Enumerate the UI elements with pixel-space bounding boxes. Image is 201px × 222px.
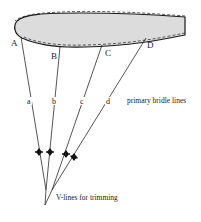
label-point-d: D	[147, 40, 154, 50]
bridle-line-d	[52, 38, 146, 190]
label-point-c: C	[105, 48, 111, 58]
annotation-primary-bridle-lines: primary bridle lines	[127, 96, 186, 105]
label-line-d: d	[106, 97, 110, 106]
bridle-diagram: A B C D a b c d primary bridle lines V-l…	[0, 0, 201, 222]
diagram-canvas: A B C D a b c d primary bridle lines V-l…	[0, 0, 201, 222]
bridle-line-a	[21, 37, 46, 190]
label-point-a: A	[11, 38, 18, 48]
label-line-a: a	[27, 97, 31, 106]
label-line-c: c	[80, 97, 84, 106]
trim-marker-d	[71, 153, 78, 161]
bridle-line-b	[46, 47, 60, 190]
label-line-b: b	[52, 97, 56, 106]
trim-marker-b	[46, 148, 54, 156]
bridle-line-c	[52, 45, 102, 190]
label-point-b: B	[51, 51, 57, 61]
trim-marker-a	[35, 148, 43, 156]
annotation-v-lines: V-lines for trimming	[56, 193, 118, 202]
